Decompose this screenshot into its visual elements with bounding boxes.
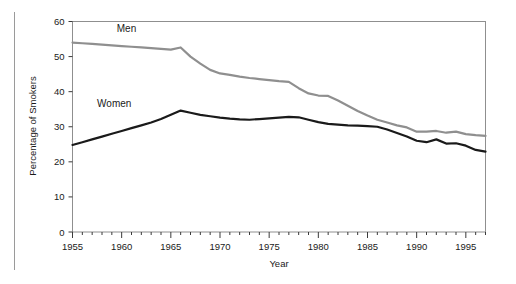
x-tick-label: 1985: [357, 241, 378, 252]
y-tick-label: 10: [54, 191, 65, 202]
series-label-women: Women: [97, 98, 131, 109]
y-tick-label: 40: [54, 86, 65, 97]
smoking-prevalence-line-chart: 0102030405060 19551960196519701975198019…: [0, 0, 516, 284]
y-axis-title: Percentage of Smokers: [27, 76, 38, 176]
x-axis-tick-labels: 195519601965197019751980198519901995: [62, 241, 476, 252]
data-series-group: [73, 43, 486, 152]
y-tick-label: 50: [54, 51, 65, 62]
y-axis-tick-labels: 0102030405060: [54, 16, 65, 238]
series-line-men: [73, 43, 486, 136]
y-tick-label: 20: [54, 156, 65, 167]
x-tick-label: 1995: [455, 241, 476, 252]
x-tick-label: 1955: [62, 241, 83, 252]
x-tick-label: 1975: [259, 241, 280, 252]
x-tick-label: 1965: [160, 241, 181, 252]
y-axis-ticks: [69, 22, 73, 233]
chart-figure: 0102030405060 19551960196519701975198019…: [0, 0, 516, 284]
x-tick-label: 1990: [406, 241, 427, 252]
series-label-men: Men: [117, 23, 136, 34]
y-tick-label: 30: [54, 121, 65, 132]
y-tick-label: 0: [59, 227, 64, 238]
x-tick-label: 1970: [209, 241, 230, 252]
y-tick-label: 60: [54, 16, 65, 27]
x-tick-label: 1960: [111, 241, 132, 252]
x-axis-title: Year: [269, 258, 288, 269]
x-tick-label: 1980: [308, 241, 329, 252]
